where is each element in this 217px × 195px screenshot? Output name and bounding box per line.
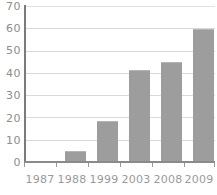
bar-2003 [129,70,150,162]
x-tick-1 [56,163,57,167]
y-tick-label-30: 30 [0,90,21,101]
x-tick-0 [24,163,25,167]
gridline-40 [24,73,215,74]
y-tick-label-20: 20 [0,113,21,124]
plot-area [24,6,215,162]
x-tick-5 [184,163,185,167]
bar-1999 [97,121,118,162]
bar-2008 [161,62,182,162]
gridline-30 [24,95,215,96]
y-tick-label-70: 70 [0,1,21,12]
y-tick-label-0: 0 [0,157,21,168]
x-tick-label-2003: 2003 [121,174,150,185]
y-axis-labels: 70 60 50 40 30 20 10 0 [0,0,21,195]
y-tick-label-40: 40 [0,68,21,79]
x-tick-label-1987: 1987 [25,174,54,185]
y-tick-label-60: 60 [0,23,21,34]
y-tick-label-10: 10 [0,135,21,146]
x-tick-label-1999: 1999 [89,174,118,185]
gridline-60 [24,28,215,29]
y-tick-label-50: 50 [0,45,21,56]
x-tick-label-2009: 2009 [184,174,213,185]
x-tick-3 [120,163,121,167]
bar-2009 [193,29,214,162]
gridline-10 [24,140,215,141]
x-tick-2 [88,163,89,167]
bar-chart: 70 60 50 40 30 20 10 0 1987 1988 1999 20… [0,0,217,195]
x-tick-4 [152,163,153,167]
gridline-50 [24,51,215,52]
x-tick-label-2008: 2008 [153,174,182,185]
gridline-70 [24,6,215,7]
y-axis-line [24,5,26,163]
x-tick-label-1988: 1988 [57,174,86,185]
gridline-20 [24,117,215,118]
x-tick-6 [214,163,215,167]
